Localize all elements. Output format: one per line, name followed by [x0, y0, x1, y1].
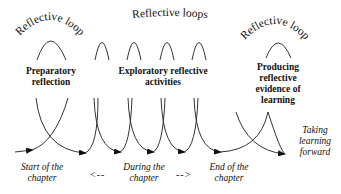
reflective-loop-label-right: Reflective loop — [238, 14, 313, 42]
loop-top-4 — [160, 43, 174, 61]
reflective-loops-label-middle: Reflective loops — [131, 6, 209, 21]
loop-bottom-2 — [85, 98, 98, 153]
exit-line — [236, 112, 284, 154]
stage-preparatory: Preparatory reflection — [18, 66, 84, 88]
loop-bottom-3 — [120, 98, 132, 152]
timeline-during: During the chapter — [117, 162, 171, 184]
timeline-start: Start of the chapter — [12, 162, 72, 184]
entry-line — [15, 150, 32, 152]
outcome-label: Taking learning forward — [290, 125, 340, 158]
loop-bottom-6b — [268, 112, 285, 154]
timeline-end: End of the chapter — [203, 162, 255, 184]
loop-top-6 — [266, 43, 291, 58]
loop-bottom-4 — [153, 98, 165, 152]
back-arrow-icon: <-- — [90, 169, 105, 180]
loop-top-3 — [127, 43, 141, 61]
stage-exploratory: Exploratory reflective activities — [104, 66, 222, 88]
stage-producing: Producing reflective evidence of learnin… — [245, 62, 311, 106]
loop-top-2 — [95, 43, 109, 61]
loop-bottom-1b — [36, 98, 85, 153]
loop-bottom-5 — [184, 98, 198, 152]
reflective-loop-label-left: Reflective loop — [13, 10, 88, 38]
loop-top-5 — [192, 43, 206, 61]
forward-arrow-icon: --> — [176, 169, 191, 180]
loop-top-1 — [37, 41, 66, 60]
